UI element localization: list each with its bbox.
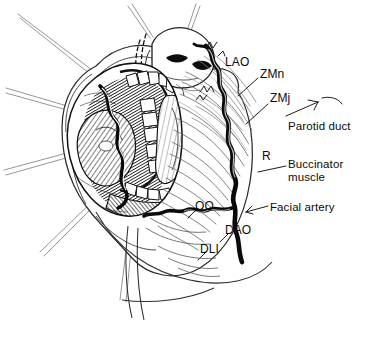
tongue-mass [77, 110, 135, 186]
label-oo: OO [195, 200, 214, 213]
label-zmj: ZMj [270, 92, 290, 105]
label-dli: DLI [200, 243, 219, 256]
label-r: R [262, 150, 271, 163]
label-parotid-duct: Parotid duct [288, 120, 351, 133]
label-facial-artery: Facial artery [270, 201, 335, 214]
label-lao: LAO [225, 56, 249, 69]
label-buccinator-muscle: Buccinator muscle [288, 158, 343, 183]
label-dao: DAO [225, 224, 251, 237]
facial-anatomy-figure: LAO ZMn ZMj Parotid duct R Buccinator mu… [0, 0, 365, 360]
label-zmn: ZMn [260, 68, 284, 81]
